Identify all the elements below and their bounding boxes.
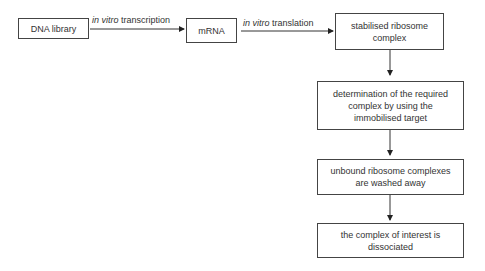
node-stabilised-complex: stabilised ribosome complex (335, 13, 444, 50)
node-label: determination of the required complex by… (326, 88, 455, 124)
edge-label-italic: in vitro (92, 15, 119, 25)
node-label: stabilised ribosome complex (350, 20, 429, 44)
node-wash: unbound ribosome complexes are washed aw… (317, 159, 464, 195)
node-label: the complex of interest is dissociated (332, 229, 449, 253)
edge-label-transcription: in vitro transcription (92, 15, 170, 25)
edge-label-text: translation (270, 18, 314, 28)
node-label: DNA library (31, 23, 77, 35)
edge-label-italic: in vitro (243, 18, 270, 28)
node-mrna: mRNA (186, 18, 237, 43)
node-determination: determination of the required complex by… (317, 81, 464, 130)
edge-label-text: transcription (119, 15, 171, 25)
edge-label-translation: in vitro translation (243, 18, 314, 28)
node-dna-library: DNA library (18, 18, 89, 39)
node-dissociate: the complex of interest is dissociated (317, 223, 464, 258)
node-label: mRNA (198, 25, 225, 37)
node-label: unbound ribosome complexes are washed aw… (324, 165, 457, 189)
